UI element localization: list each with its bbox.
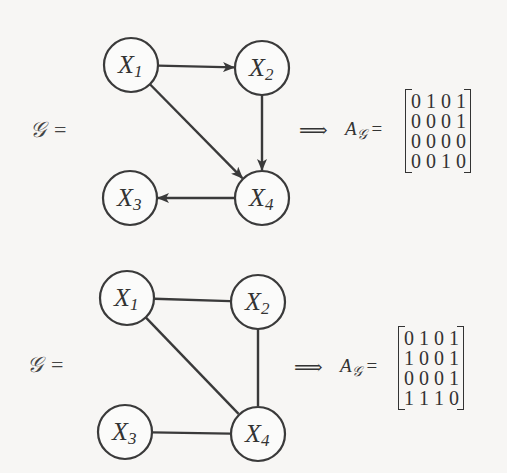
- node-x2: X2: [235, 41, 289, 95]
- matrix-cell: 0: [441, 111, 450, 131]
- graph-symbol: 𝒢: [30, 117, 48, 142]
- matrix-cell: 1: [419, 388, 428, 408]
- matrix-letter: A: [345, 118, 357, 139]
- node-x4: X4: [231, 407, 285, 461]
- matrix-cell: 1: [449, 348, 458, 368]
- matrix-cell: 0: [434, 368, 443, 388]
- matrix-cell: 0: [449, 388, 458, 408]
- equals-sign: =: [372, 118, 383, 139]
- edge-x1-x4: [150, 84, 242, 178]
- nodes-layer: X1X2X3X4X1X2X3X4: [98, 38, 289, 461]
- node-x3: X3: [98, 405, 152, 459]
- equals-sign: =: [51, 352, 65, 377]
- matrix-cell: 0: [426, 151, 435, 171]
- matrix-cell: 0: [426, 111, 435, 131]
- matrix-cell: 0: [441, 91, 450, 111]
- matrix-cell: 0: [441, 131, 450, 151]
- matrix-row: 0001: [411, 111, 465, 131]
- adjacency-matrix-name-directed: A𝒢=: [345, 118, 382, 140]
- adjacency-matrix-name-undirected: A𝒢=: [340, 355, 377, 377]
- implies-arrow-undirected: ⟹: [294, 355, 323, 379]
- matrix-cell: 0: [404, 328, 413, 348]
- edge-x1-x4: [146, 317, 239, 413]
- matrix-cell: 1: [441, 151, 450, 171]
- matrix-cell: 1: [434, 388, 443, 408]
- node-x2: X2: [231, 275, 285, 329]
- matrix-cell: 0: [411, 111, 420, 131]
- matrix-row: 0010: [411, 151, 465, 171]
- matrix-row: 0101: [404, 328, 458, 348]
- adjacency-matrix-directed: 0101000100000010: [405, 89, 471, 173]
- graph-label-undirected: 𝒢=: [27, 352, 65, 378]
- matrix-cell: 0: [411, 151, 420, 171]
- matrix-cell: 0: [404, 368, 413, 388]
- matrix-letter: A: [340, 355, 352, 376]
- node-x1: X1: [104, 38, 158, 92]
- node-x4: X4: [235, 171, 289, 225]
- matrix-cell: 1: [419, 328, 428, 348]
- matrix-cell: 1: [449, 368, 458, 388]
- matrix-row: 0101: [411, 91, 465, 111]
- equals-sign: =: [367, 355, 378, 376]
- matrix-cell: 0: [456, 131, 465, 151]
- matrix-cell: 0: [411, 131, 420, 151]
- matrix-cell: 0: [411, 91, 420, 111]
- matrix-cell: 0: [426, 131, 435, 151]
- edge-x1-x2: [154, 299, 230, 301]
- matrix-cell: 0: [434, 348, 443, 368]
- adjacency-matrix-undirected: 0101100100011110: [398, 326, 464, 410]
- equals-sign: =: [54, 117, 68, 142]
- matrix-subscript: 𝒢: [352, 364, 362, 379]
- matrix-subscript: 𝒢: [357, 127, 367, 142]
- matrix-cell: 1: [456, 91, 465, 111]
- graph-symbol: 𝒢: [27, 352, 45, 377]
- matrix-cell: 1: [404, 348, 413, 368]
- graph-label-directed: 𝒢=: [30, 117, 68, 143]
- matrix-cell: 1: [456, 111, 465, 131]
- matrix-row: 1110: [404, 388, 458, 408]
- matrix-row: 0001: [404, 368, 458, 388]
- matrix-cell: 0: [434, 328, 443, 348]
- matrix-cell: 1: [426, 91, 435, 111]
- edges-layer: [146, 66, 262, 434]
- edge-x3-x4: [152, 432, 230, 433]
- node-x1: X1: [100, 271, 154, 325]
- matrix-cell: 1: [449, 328, 458, 348]
- matrix-cell: 0: [419, 368, 428, 388]
- matrix-cell: 0: [419, 348, 428, 368]
- implies-arrow-directed: ⟹: [299, 118, 328, 142]
- matrix-cell: 1: [404, 388, 413, 408]
- matrix-row: 0000: [411, 131, 465, 151]
- matrix-cell: 0: [456, 151, 465, 171]
- node-x3: X3: [103, 171, 157, 225]
- edge-x1-x2: [158, 66, 234, 68]
- matrix-row: 1001: [404, 348, 458, 368]
